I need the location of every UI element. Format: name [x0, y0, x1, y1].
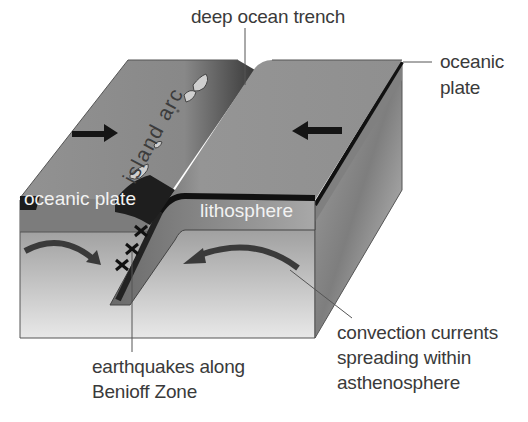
- label-convection-3: asthenosphere: [337, 372, 460, 394]
- label-oceanic-plate-right-1: oceanic: [440, 51, 504, 73]
- label-convection-2: spreading within: [337, 347, 471, 369]
- subduction-diagram: deep ocean trench oceanic plate island a…: [0, 0, 528, 422]
- label-benioff-1: earthquakes along: [92, 356, 245, 378]
- label-deep-ocean-trench: deep ocean trench: [191, 6, 345, 28]
- label-lithosphere: lithosphere: [200, 200, 293, 222]
- label-oceanic-plate-left: oceanic plate: [24, 188, 136, 210]
- label-oceanic-plate-right-2: plate: [440, 77, 480, 99]
- label-convection-1: convection currents: [337, 322, 498, 344]
- label-benioff-2: Benioff Zone: [92, 381, 197, 403]
